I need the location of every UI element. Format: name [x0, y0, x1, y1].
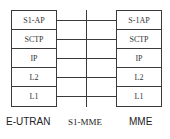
e-utran-layer-sctp: SCTP [12, 30, 56, 49]
e-utran-stack: S1-AP SCTP IP L2 L1 [11, 10, 57, 107]
mme-layer-sctp: SCTP [117, 30, 161, 49]
e-utran-layer-l1: L1 [12, 87, 56, 106]
e-utran-layer-s1ap: S1-AP [12, 11, 56, 30]
e-utran-label: E-UTRAN [6, 116, 50, 127]
e-utran-layer-l2: L2 [12, 68, 56, 87]
interface-label: S1-MME [68, 117, 102, 127]
mme-layer-l2: L2 [117, 68, 161, 87]
mme-layer-ip: IP [117, 49, 161, 68]
mme-layer-s1ap: S-1AP [117, 11, 161, 30]
mme-stack: S-1AP SCTP IP L2 L1 [116, 10, 162, 107]
mme-layer-l1: L1 [117, 87, 161, 106]
mme-label: MME [129, 116, 152, 127]
e-utran-layer-ip: IP [12, 49, 56, 68]
interface-divider-line [86, 10, 87, 107]
